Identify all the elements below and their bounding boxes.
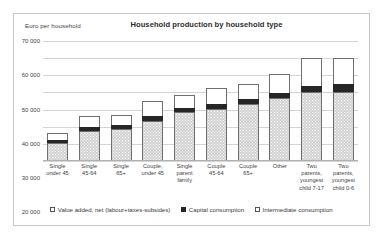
x-axis-label-line: Single [75, 163, 103, 170]
x-axis-label: Singleunder 45 [44, 163, 72, 192]
x-axis-label-line: Two [329, 163, 357, 170]
bar-group[interactable] [238, 84, 259, 161]
y-axis-tick-label: 70 000 [22, 38, 40, 44]
bar-segment-capital-consumption [301, 86, 322, 93]
legend-item[interactable]: Capital consumption [181, 206, 244, 213]
bar-segment-value-added [47, 143, 68, 161]
bar-segment-value-added [301, 92, 322, 161]
bar-segment-value-added [238, 104, 259, 161]
legend-label: Intermediate consumption [263, 206, 333, 213]
x-axis-label-line: 65+ [107, 170, 135, 177]
x-axis-label: Other [266, 163, 294, 192]
bar-segment-intermediate-consumption [111, 115, 132, 125]
x-axis-label-line: parent [171, 170, 199, 177]
x-axis-label-line: family [171, 177, 199, 184]
x-axis-label: Twoparents,youngestchild 0-6 [329, 163, 357, 192]
x-axis-label-line: youngest [298, 177, 326, 184]
x-axis-label-line: Single [107, 163, 135, 170]
x-axis-label-line: Couple [202, 163, 230, 170]
legend-swatch-intermediate [255, 207, 260, 212]
bar-segment-intermediate-consumption [206, 88, 227, 103]
bar-segment-value-added [269, 98, 290, 161]
x-axis-label-line: youngest [329, 177, 357, 184]
bar-group[interactable] [174, 95, 195, 161]
chart-container: Euro per household Household production … [13, 13, 370, 226]
bar-segment-intermediate-consumption [269, 74, 290, 93]
x-axis-label-line: child 0-6 [329, 185, 357, 192]
bar-segment-value-added [111, 129, 132, 161]
legend-label: Value added, net (labour+taxes-subsides) [58, 206, 171, 213]
legend-swatch-capital [181, 207, 186, 212]
legend-label: Capital consumption [189, 206, 244, 213]
bar-segment-value-added [333, 92, 354, 161]
bar-group[interactable] [79, 116, 100, 161]
legend-swatch-value-added [50, 207, 55, 212]
x-axis-label-line: Couple [234, 163, 262, 170]
bar-segment-intermediate-consumption [79, 116, 100, 126]
x-axis-label-line: child 7-17 [298, 185, 326, 192]
bar-segment-value-added [206, 109, 227, 161]
x-axis-label: Singleparentfamily [171, 163, 199, 192]
x-axis-labels: Singleunder 45Single45-64Single65+Couple… [43, 163, 358, 192]
bars-layer [43, 41, 358, 161]
bar-group[interactable] [301, 58, 322, 161]
bar-group[interactable] [206, 88, 227, 161]
x-axis-label-line: parents, [329, 170, 357, 177]
bar-group[interactable] [333, 58, 354, 161]
bar-segment-capital-consumption [333, 84, 354, 92]
x-axis-label-line: Other [266, 163, 294, 170]
plot-area: 010 00020 00030 00040 00050 00060 00070 … [43, 41, 358, 161]
x-axis-label: Twoparents,youngestchild 7-17 [298, 163, 326, 192]
x-axis-label-line: 45-64 [75, 170, 103, 177]
bar-segment-intermediate-consumption [47, 133, 68, 140]
bar-group[interactable] [47, 133, 68, 161]
x-axis-label-line: Single [44, 163, 72, 170]
x-axis-label: Couple45-64 [202, 163, 230, 192]
y-axis-tick-label: 60 000 [22, 72, 40, 78]
bar-segment-value-added [142, 121, 163, 161]
bar-segment-intermediate-consumption [142, 101, 163, 116]
chart-legend: Value added, net (labour+taxes-subsides)… [14, 206, 369, 213]
bar-group[interactable] [142, 101, 163, 161]
x-axis-label: Single45-64 [75, 163, 103, 192]
bar-segment-intermediate-consumption [333, 58, 354, 84]
bar-segment-value-added [79, 131, 100, 161]
x-axis-label-line: under 45 [139, 170, 167, 177]
bar-segment-value-added [174, 112, 195, 161]
bar-segment-intermediate-consumption [301, 58, 322, 85]
x-axis-label-line: under 45 [44, 170, 72, 177]
axis-baseline [43, 160, 358, 161]
bar-segment-intermediate-consumption [238, 84, 259, 99]
bar-group[interactable] [269, 74, 290, 161]
x-axis-label-line: parents, [298, 170, 326, 177]
legend-item[interactable]: Value added, net (labour+taxes-subsides) [50, 206, 170, 213]
chart-title: Household production by household type [14, 20, 369, 29]
bar-segment-intermediate-consumption [174, 95, 195, 108]
x-axis-label: Couple,under 45 [139, 163, 167, 192]
x-axis-label-line: Couple, [139, 163, 167, 170]
legend-item[interactable]: Intermediate consumption [255, 206, 333, 213]
x-axis-label-line: Two [298, 163, 326, 170]
y-axis-tick-label: 40 000 [22, 141, 40, 147]
x-axis-label-line: 65+ [234, 170, 262, 177]
bar-group[interactable] [111, 115, 132, 161]
gridline: 0 [43, 161, 358, 162]
x-axis-label-line: Single [171, 163, 199, 170]
x-axis-label: Single65+ [107, 163, 135, 192]
y-axis-tick-label: 30 000 [22, 175, 40, 181]
x-axis-label: Couple65+ [234, 163, 262, 192]
x-axis-label-line: 45-64 [202, 170, 230, 177]
y-axis-tick-label: 50 000 [22, 107, 40, 113]
